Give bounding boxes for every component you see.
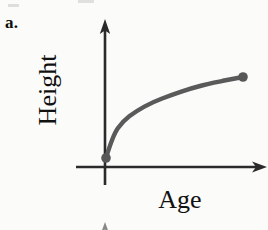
figure-panel-a: a. Height Age [0, 0, 268, 230]
curve-start-point [101, 153, 111, 163]
cropped-next-figure-arrow-icon [101, 222, 108, 230]
curve-end-point [238, 72, 248, 82]
x-axis-label: Age [158, 187, 201, 213]
height-vs-age-curve [106, 77, 243, 158]
y-axis-label: Height [35, 55, 61, 126]
